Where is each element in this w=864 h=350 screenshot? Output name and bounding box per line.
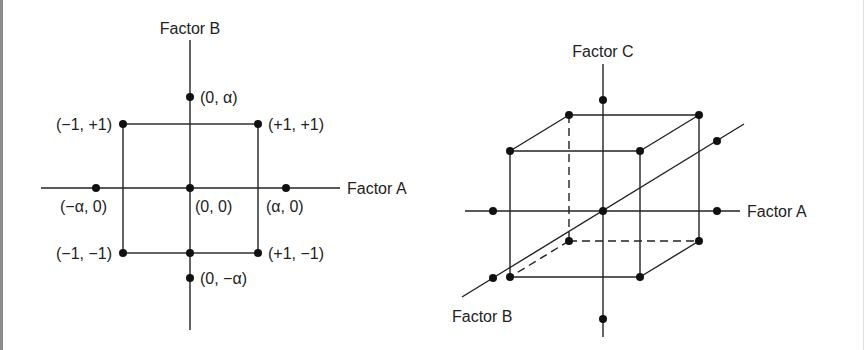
cube-edge: [510, 115, 569, 151]
point-corner-top-left: [119, 120, 127, 128]
label-corner-bottom-left: (−1, −1): [56, 245, 112, 262]
cube-edge-hidden-depth: [510, 241, 569, 277]
point-cube-corner: [565, 237, 573, 245]
point-cube-corner: [565, 111, 573, 119]
point-axial-a-plus: [713, 207, 721, 215]
point-center-3d: [599, 207, 607, 215]
point-cube-corner: [506, 147, 514, 155]
point-cube-corner: [695, 237, 703, 245]
point-axial-a-minus: [489, 207, 497, 215]
label-corner-top-right: (+1, +1): [268, 116, 324, 133]
point-axial-b-plus: [713, 137, 721, 145]
label-axial-top: (0, α): [200, 89, 238, 106]
cube-edge: [640, 115, 699, 151]
point-axial-bottom: [186, 274, 194, 282]
ccd-figure: Factor B Factor A (0, α) (−1, +1) (+1, +…: [0, 0, 864, 350]
point-corner-bottom-left: [119, 249, 127, 257]
factor-b-label: Factor B: [160, 20, 220, 37]
factor-b-label-3d: Factor B: [452, 308, 512, 325]
label-corner-top-left: (−1, +1): [56, 116, 112, 133]
label-axial-bottom: (0, −α): [200, 270, 247, 287]
label-axial-right: (α, 0): [266, 198, 304, 215]
point-axial-left: [92, 184, 100, 192]
two-factor-diagram: Factor B Factor A (0, α) (−1, +1) (+1, +…: [41, 20, 407, 330]
point-bottom-mid: [186, 249, 194, 257]
cube-edge: [640, 241, 699, 277]
point-cube-corner: [506, 273, 514, 281]
factor-a-label: Factor A: [347, 180, 407, 197]
point-center: [186, 184, 194, 192]
point-corner-bottom-right: [254, 249, 262, 257]
point-axial-right: [282, 184, 290, 192]
three-factor-diagram: Factor C Factor A Factor B: [452, 43, 807, 337]
factor-c-label: Factor C: [572, 43, 633, 60]
label-corner-bottom-right: (+1, −1): [268, 245, 324, 262]
label-axial-left: (−α, 0): [60, 198, 107, 215]
point-axial-c-minus: [599, 315, 607, 323]
point-axial-c-plus: [599, 96, 607, 104]
point-axial-top: [186, 93, 194, 101]
point-axial-b-minus: [489, 274, 497, 282]
point-cube-corner: [636, 273, 644, 281]
point-cube-corner: [695, 111, 703, 119]
factor-a-label-3d: Factor A: [747, 203, 807, 220]
label-center: (0, 0): [195, 198, 232, 215]
point-corner-top-right: [254, 120, 262, 128]
point-cube-corner: [636, 147, 644, 155]
